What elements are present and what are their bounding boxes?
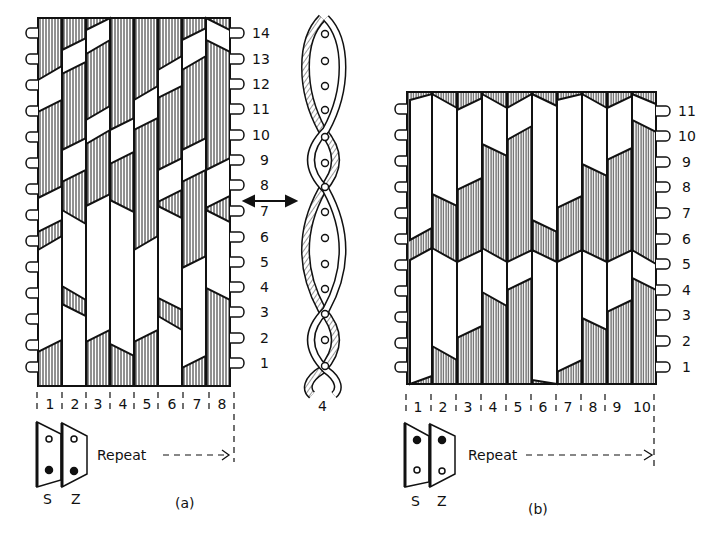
row-label: 6 [682, 232, 691, 246]
tablet-z-a [62, 423, 87, 487]
column-label: 2 [66, 397, 84, 411]
column-label: 1 [409, 400, 427, 414]
tablet-z-b [430, 424, 455, 487]
column-label: 7 [559, 400, 577, 414]
row-label: 14 [252, 26, 270, 40]
row-label: 7 [682, 206, 691, 220]
column-label: 5 [138, 397, 156, 411]
row-label: 5 [682, 257, 691, 271]
row-label: 2 [260, 331, 269, 345]
band-a [26, 18, 244, 487]
column-label: 1 [41, 397, 59, 411]
tablet-label-z-a: Z [71, 492, 81, 506]
row-label: 7 [260, 204, 269, 218]
repeat-label-a: Repeat [97, 448, 146, 462]
column-label: 4 [484, 400, 502, 414]
band-b [395, 92, 670, 487]
figure-b-caption: (b) [528, 502, 548, 516]
column-label: 8 [584, 400, 602, 414]
row-label: 4 [260, 280, 269, 294]
tablet-label-z-b: Z [437, 494, 447, 508]
row-label: 5 [260, 255, 269, 269]
double-arrow-icon [244, 196, 296, 206]
row-label: 10 [678, 129, 696, 143]
tablet-label-s-b: S [411, 494, 420, 508]
row-label: 1 [682, 360, 691, 374]
tablet-s-b [405, 423, 429, 487]
row-label: 3 [682, 308, 691, 322]
column-label: 5 [509, 400, 527, 414]
column-label: 10 [630, 400, 654, 414]
row-label: 13 [252, 52, 270, 66]
row-label: 2 [682, 334, 691, 348]
row-label: 9 [260, 153, 269, 167]
twist-detail [244, 18, 343, 395]
row-label: 10 [252, 128, 270, 142]
twist-detail-label: 4 [318, 399, 327, 413]
row-label: 4 [682, 283, 691, 297]
repeat-label-b: Repeat [468, 448, 517, 462]
column-label: 4 [114, 397, 132, 411]
column-label: 3 [459, 400, 477, 414]
column-label: 7 [188, 397, 206, 411]
row-label: 9 [682, 155, 691, 169]
tablet-s-a [37, 422, 61, 487]
column-label: 3 [89, 397, 107, 411]
column-label: 8 [213, 397, 231, 411]
row-label: 6 [260, 230, 269, 244]
column-label: 6 [534, 400, 552, 414]
row-label: 1 [260, 356, 269, 370]
row-label: 11 [252, 102, 270, 116]
column-label: 2 [434, 400, 452, 414]
column-label: 6 [163, 397, 181, 411]
figure-a-caption: (a) [175, 496, 195, 510]
column-label: 9 [608, 400, 626, 414]
row-label: 8 [260, 178, 269, 192]
row-label: 11 [678, 104, 696, 118]
row-label: 3 [260, 305, 269, 319]
row-label: 8 [682, 180, 691, 194]
tablet-label-s-a: S [43, 492, 52, 506]
row-label: 12 [252, 77, 270, 91]
